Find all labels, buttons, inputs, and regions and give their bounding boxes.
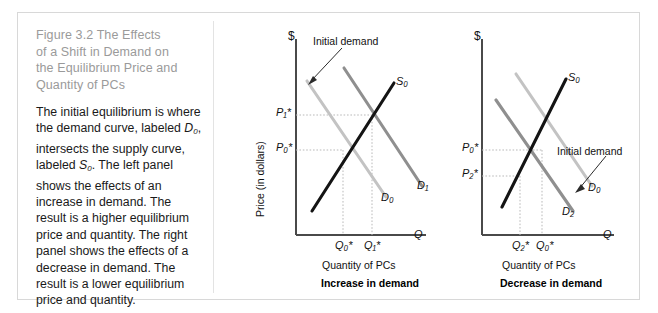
left-x-axis-title: Quantity of PCs bbox=[322, 259, 396, 271]
right-annotation-arrowhead bbox=[575, 184, 585, 193]
figure-box: Figure 3.2 The Effects of a Shift in Dem… bbox=[17, 12, 640, 300]
figure-caption-body: The initial equilibrium is where the dem… bbox=[36, 104, 204, 309]
figure-title-line-4: Quantity of PCs bbox=[36, 77, 204, 94]
right-curve-label-supply: S₀ bbox=[568, 71, 580, 83]
right-curve-label-demand-shifted: D₂ bbox=[562, 205, 574, 217]
right-annotation-initial-demand: Initial demand bbox=[557, 145, 622, 157]
right-quantity-tick-0: Q₀* bbox=[536, 239, 553, 251]
right-x-axis-symbol: Q bbox=[603, 228, 612, 240]
figure-title-line-3: the Equilibrium Price and bbox=[36, 60, 204, 77]
right-curve-demand-initial bbox=[516, 74, 592, 186]
right-price-tick-2: P₂* bbox=[462, 167, 478, 179]
right-y-axis-symbol: $ bbox=[474, 29, 481, 43]
chart-panel-increase-in-demand: $ Q Price (in dollars) Initial demand S₀… bbox=[226, 21, 426, 293]
figure-title: Figure 3.2 The Effects of a Shift in Dem… bbox=[36, 27, 204, 93]
left-curve-demand-initial bbox=[307, 81, 386, 197]
left-quantity-tick-0: Q₀* bbox=[335, 239, 352, 251]
left-price-tick-0: P₀* bbox=[276, 141, 292, 153]
right-price-tick-0: P₀* bbox=[462, 141, 478, 153]
left-y-axis-symbol: $ bbox=[288, 29, 295, 43]
left-y-axis-title: Price (in dollars) bbox=[254, 141, 266, 217]
left-price-tick-1: P₁* bbox=[276, 106, 291, 118]
figure-caption: Figure 3.2 The Effects of a Shift in Dem… bbox=[36, 27, 204, 309]
right-panel-title: Decrease in demand bbox=[500, 277, 602, 289]
caption-part-1: The initial equilibrium is where the dem… bbox=[36, 105, 201, 135]
chart-panel-decrease-in-demand: $ Q Initial demand S₀ D₀ D₂ P₀* P₂* Q₂* … bbox=[416, 21, 616, 293]
left-curve-label-supply: S₀ bbox=[396, 75, 408, 87]
figure-title-line-2: of a Shift in Demand on bbox=[36, 44, 204, 61]
left-annotation-arrowhead bbox=[308, 76, 317, 85]
right-quantity-tick-2: Q₂* bbox=[512, 239, 529, 251]
left-curve-demand-shifted bbox=[344, 68, 422, 186]
left-quantity-tick-1: Q₁* bbox=[364, 239, 380, 251]
left-annotation-leader bbox=[311, 48, 342, 81]
column-divider bbox=[213, 21, 214, 293]
right-curve-label-demand-initial: D₀ bbox=[588, 181, 601, 193]
left-curve-label-demand-initial: D₀ bbox=[381, 191, 394, 203]
caption-part-3: . The left panel shows the effects of an… bbox=[36, 158, 189, 307]
right-x-axis-title: Quantity of PCs bbox=[502, 259, 576, 271]
left-annotation-initial-demand: Initial demand bbox=[313, 35, 378, 47]
figure-title-line-1: Figure 3.2 The Effects bbox=[36, 27, 204, 44]
caption-symbol-d: D bbox=[184, 121, 193, 135]
left-panel-title: Increase in demand bbox=[321, 277, 419, 289]
right-panel-plot bbox=[416, 21, 616, 293]
